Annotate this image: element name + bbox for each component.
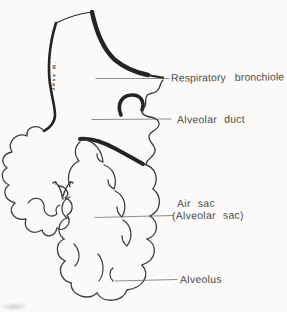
scan-smudge-artifact bbox=[0, 302, 28, 311]
duct-left-wavy-edge-path bbox=[68, 142, 80, 187]
thick-ink-group bbox=[44, 12, 163, 164]
duct-step-edge-path bbox=[144, 80, 163, 108]
left-sac-cluster-interior-path bbox=[28, 198, 60, 216]
central-cluster-bump-2-path bbox=[150, 189, 159, 216]
alveolar-duct-hook-path bbox=[119, 95, 143, 115]
bronchiole-top-rim-path bbox=[56, 12, 92, 23]
central-cluster-bump-5-path bbox=[127, 265, 146, 290]
central-cluster-bump-10-path bbox=[59, 218, 67, 239]
leader-line-air-sac bbox=[95, 216, 173, 218]
bronchiole-right-wall-tip-path bbox=[148, 75, 163, 78]
lung-diagram-svg bbox=[0, 0, 287, 312]
label-air-sac-paren: (Alveolar sac) bbox=[172, 209, 244, 222]
label-alveolus: Alveolus bbox=[180, 273, 222, 285]
label-air-sac: Air sac bbox=[177, 197, 215, 209]
central-cluster-bump-3-path bbox=[147, 216, 156, 239]
leader-lines-group bbox=[92, 79, 177, 282]
central-cluster-bump-9-path bbox=[57, 239, 65, 261]
sac-cascade-3-path bbox=[115, 191, 125, 217]
leader-line-alveolus bbox=[115, 280, 177, 282]
duct-right-wavy-edge-path bbox=[146, 117, 159, 164]
central-cluster-bump-7-path bbox=[71, 283, 97, 297]
alveolar-duct-swoosh-path bbox=[80, 139, 143, 164]
diagram-canvas: Respiratory bronchiole Alveolar duct Air… bbox=[0, 0, 287, 312]
alveolus-junction-curl-path bbox=[110, 268, 113, 281]
label-respiratory-bronchiole: Respiratory bronchiole bbox=[171, 70, 284, 83]
leader-line-alveolar-duct bbox=[92, 119, 171, 120]
sac-cascade-4-path bbox=[122, 220, 131, 246]
bronchiole-right-wall-path bbox=[92, 12, 148, 75]
central-cluster-bump-1-path bbox=[144, 164, 156, 189]
label-alveolar-duct: Alveolar duct bbox=[177, 113, 245, 126]
central-cluster-bump-6-path bbox=[97, 290, 127, 300]
bottom-sac-interior-path bbox=[98, 254, 103, 281]
thin-ink-group bbox=[2, 80, 163, 300]
sac-cascade-2-path bbox=[104, 165, 115, 189]
left-sac-cluster-outline-path bbox=[2, 127, 72, 236]
bottom-sac-interior-2-path bbox=[74, 244, 79, 266]
central-cluster-bump-4-path bbox=[142, 239, 154, 265]
central-cluster-bump-8-path bbox=[60, 261, 71, 283]
